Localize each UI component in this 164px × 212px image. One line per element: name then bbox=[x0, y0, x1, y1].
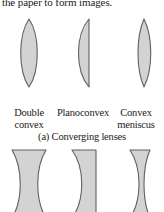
lens-label-line2: convex bbox=[1, 119, 57, 131]
lens-figure: the paper to form images. Double convex … bbox=[0, 0, 164, 212]
lens-cell-convex-meniscus bbox=[110, 17, 164, 89]
lens-cell-double-concave bbox=[2, 148, 56, 212]
lens-cell-double-convex bbox=[2, 17, 56, 89]
converging-labels-row: Double convex Planoconvex Convex meniscu… bbox=[0, 107, 164, 131]
lens-cell-planoconcave bbox=[56, 148, 110, 212]
planoconcave-lens-icon bbox=[56, 148, 110, 212]
lens-label-line1: Double bbox=[1, 107, 57, 119]
lens-label-line2: meniscus bbox=[108, 119, 164, 131]
biconcave-lens-icon bbox=[2, 148, 56, 212]
lens-label-convex-meniscus: Convex meniscus bbox=[108, 107, 164, 130]
lens-label-line1: Planoconvex bbox=[55, 107, 111, 119]
body-paragraph-clipped: the paper to form images. bbox=[2, 0, 164, 9]
planoconvex-lens-icon bbox=[56, 17, 110, 89]
diverging-lenses-row bbox=[0, 148, 164, 212]
concave-meniscus-lens-icon bbox=[110, 148, 164, 212]
biconvex-lens-icon bbox=[2, 17, 56, 89]
converging-caption: (a) Converging lenses bbox=[0, 131, 164, 143]
lens-label-line1: Convex bbox=[108, 107, 164, 119]
lens-cell-concave-meniscus bbox=[110, 148, 164, 212]
converging-lenses-row: Double convex Planoconvex Convex meniscu… bbox=[0, 17, 164, 89]
lens-label-double-convex: Double convex bbox=[1, 107, 57, 130]
convex-meniscus-lens-icon bbox=[110, 17, 164, 89]
lens-cell-planoconvex bbox=[56, 17, 110, 89]
lens-label-planoconvex: Planoconvex bbox=[55, 107, 111, 119]
